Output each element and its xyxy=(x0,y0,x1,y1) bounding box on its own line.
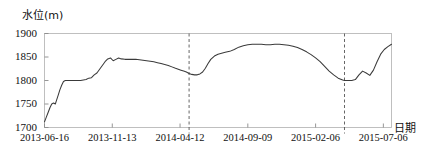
divider-lines xyxy=(189,34,344,134)
chart-canvas xyxy=(0,0,426,168)
plot-frame xyxy=(45,34,392,128)
x-tick-marks xyxy=(45,124,384,128)
water-level-chart: 水位(m) 日期 17001750180018501900 2013-06-16… xyxy=(0,0,426,168)
series-paths xyxy=(45,44,392,122)
series-line xyxy=(45,44,392,122)
